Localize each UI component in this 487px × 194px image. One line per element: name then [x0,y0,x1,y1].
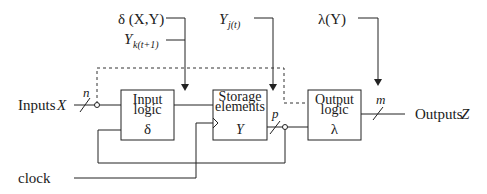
lambda-annotation-line [358,18,378,79]
p-width-label: p [271,106,279,121]
svg-text:j(t): j(t) [226,19,241,31]
clock-label: clock [18,170,51,186]
input-logic-title-2: logic [134,102,162,117]
delta-function-label: δ (X,Y) [118,11,164,28]
y-next-state-label: Y k(t+1) [124,31,159,51]
input-junction-dot [95,103,100,108]
state-junction-dot [283,125,288,130]
svg-text:Inputs: Inputs [18,97,56,113]
n-width-label: n [83,85,90,100]
inputs-x-label: Inputs X [18,97,67,113]
m-width-label: m [376,92,385,107]
current-state-annotation-line [254,18,273,84]
lambda-arrow-head [374,79,382,86]
fsm-diagram: δ (X,Y) Y k(t+1) Y j(t) λ(Y) Inputs X n … [0,0,487,194]
output-logic-title-2: logic [321,102,349,117]
lambda-function-label: λ(Y) [318,11,346,28]
svg-text:Z: Z [461,106,470,122]
storage-title-2: elements [215,99,265,114]
svg-text:Outputs: Outputs [415,106,463,122]
svg-text:X: X [56,97,67,113]
delta-annotation-line [166,18,185,40]
current-state-arrow-head [269,84,277,91]
svg-text:k(t+1): k(t+1) [133,39,159,51]
delta-symbol: δ [144,121,151,137]
lambda-symbol: λ [331,121,339,137]
y-current-state-label: Y j(t) [219,11,241,31]
next-state-arrow-head [181,84,189,91]
outputs-z-label: Outputs Z [415,106,470,122]
